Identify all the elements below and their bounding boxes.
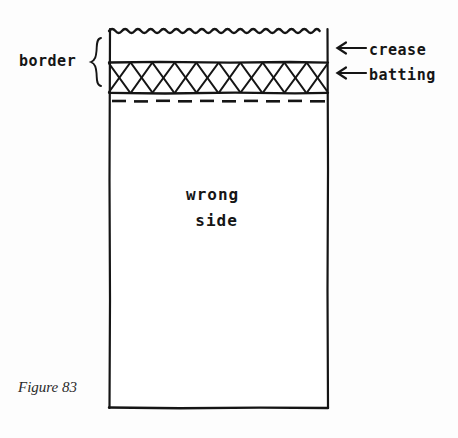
panel-right-edge bbox=[328, 29, 329, 408]
panel-bottom-edge bbox=[109, 408, 328, 409]
curly-brace-right-icon bbox=[91, 38, 101, 86]
label-crease: crease bbox=[369, 41, 426, 59]
label-border: border bbox=[19, 52, 76, 70]
figure-caption: Figure 83 bbox=[18, 379, 77, 396]
label-wrong-side: wrong side bbox=[186, 182, 239, 234]
label-wrong-side-line1: wrong bbox=[186, 185, 239, 204]
panel-left-edge bbox=[110, 29, 111, 408]
figure-page: border crease batting wrong side Figure … bbox=[0, 0, 458, 438]
label-wrong-side-line2: side bbox=[194, 208, 239, 234]
batting-arrow-left-icon bbox=[338, 68, 367, 79]
label-batting: batting bbox=[369, 66, 436, 84]
crease-arrow-left-icon bbox=[338, 43, 367, 54]
